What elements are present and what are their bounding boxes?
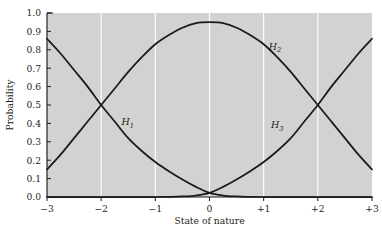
x-axis-tick-labels-group: −3−2−10+1+2+3 bbox=[40, 203, 379, 214]
x-tick-label: +2 bbox=[311, 203, 325, 214]
x-tick-label: −2 bbox=[94, 203, 108, 214]
y-tick-label: 0.7 bbox=[26, 63, 41, 74]
y-tick-label: 0.6 bbox=[26, 81, 41, 92]
x-tick-label: −3 bbox=[40, 203, 54, 214]
curve-label-subscript: 1 bbox=[130, 122, 134, 130]
x-axis-title: State of nature bbox=[174, 215, 244, 226]
chart-svg: 0.00.10.20.30.40.50.60.70.80.91.0 −3−2−1… bbox=[0, 0, 382, 230]
y-tick-label: 0.8 bbox=[26, 44, 41, 55]
x-tick-label: +3 bbox=[365, 203, 379, 214]
y-tick-label: 0.5 bbox=[26, 99, 41, 110]
x-tick-label: 0 bbox=[207, 203, 213, 214]
y-tick-label: 0.1 bbox=[26, 173, 41, 184]
y-tick-label: 0.2 bbox=[26, 155, 41, 166]
chart-figure: 0.00.10.20.30.40.50.60.70.80.91.0 −3−2−1… bbox=[0, 0, 382, 230]
y-tick-label: 0.9 bbox=[26, 26, 41, 37]
curve-label-subscript: 3 bbox=[279, 125, 283, 133]
curve-label-subscript: 2 bbox=[276, 46, 281, 54]
y-tick-label: 1.0 bbox=[26, 7, 41, 18]
y-tick-label: 0.4 bbox=[26, 118, 41, 129]
x-tick-label: −1 bbox=[149, 203, 163, 214]
y-axis-title: Probability bbox=[4, 79, 15, 131]
y-tick-label: 0.0 bbox=[26, 191, 41, 202]
y-axis-tick-labels-group: 0.00.10.20.30.40.50.60.70.80.91.0 bbox=[26, 7, 41, 202]
x-tick-label: +1 bbox=[257, 203, 271, 214]
y-tick-label: 0.3 bbox=[26, 136, 41, 147]
